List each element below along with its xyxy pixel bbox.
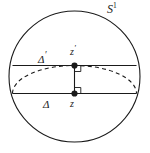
- upper-point-label-prime: ′: [74, 43, 76, 53]
- figure-canvas: [0, 0, 150, 153]
- sphere-label-exponent: 1: [113, 1, 117, 10]
- geometry-figure: S1 Δ′ z′ Δ z: [0, 0, 150, 153]
- lower-line-label: Δ: [43, 99, 49, 110]
- sphere-label: S1: [107, 3, 117, 15]
- lower-point-label: z: [70, 99, 74, 109]
- lower-point-dot: [71, 90, 77, 96]
- upper-line-label: Δ′: [38, 51, 47, 65]
- upper-line-label-prime: ′: [44, 50, 46, 60]
- upper-point-dot: [71, 62, 77, 68]
- upper-point-label: z′: [70, 44, 76, 57]
